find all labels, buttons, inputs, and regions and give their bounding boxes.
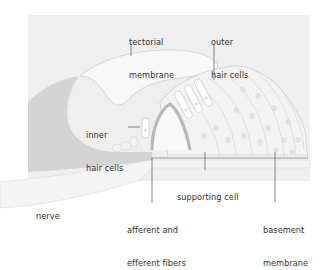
label-line: hair cells: [86, 163, 123, 174]
label-basement-membrane: basement membrane: [263, 203, 308, 270]
label-line: efferent fibers: [127, 258, 186, 269]
label-supporting-cell: supporting cell: [177, 170, 239, 225]
label-line: inner: [86, 130, 123, 141]
label-line: afferent and: [127, 225, 186, 236]
label-line: membrane: [129, 70, 174, 81]
label-inner-hair-cells: inner hair cells: [86, 108, 123, 196]
label-nerve: nerve: [36, 189, 60, 244]
label-line: tectorial: [129, 37, 174, 48]
label-outer-hair-cells: outer hair cells: [211, 15, 248, 103]
label-line: hair cells: [211, 70, 248, 81]
label-line: supporting cell: [177, 192, 239, 203]
label-line: nerve: [36, 211, 60, 222]
label-afferent-efferent-fibers: afferent and efferent fibers: [127, 203, 186, 270]
label-tectorial-membrane: tectorial membrane: [129, 15, 174, 103]
inner-hair-cell-shape: [142, 118, 149, 138]
label-line: outer: [211, 37, 248, 48]
label-line: basement: [263, 225, 308, 236]
label-line: membrane: [263, 258, 308, 269]
